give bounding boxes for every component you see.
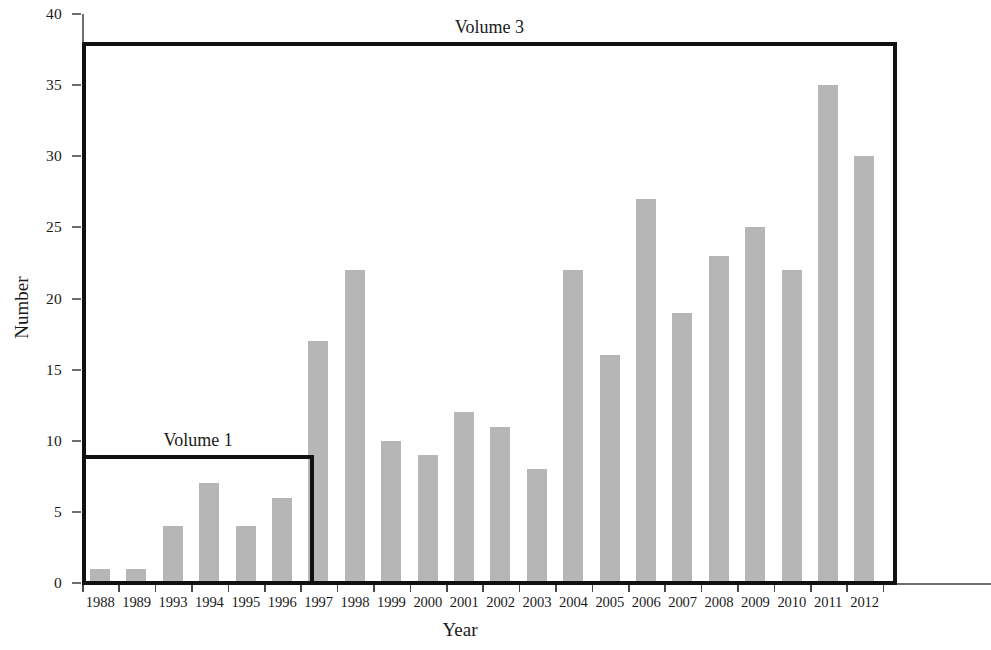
y-axis-tick-label: 30 [28, 148, 62, 164]
x-axis-title: Year [0, 620, 920, 639]
y-axis-tick-label: 20 [28, 291, 62, 307]
volume-box [82, 42, 897, 585]
y-axis-tick [72, 369, 81, 371]
y-axis-tick-label: 25 [28, 219, 62, 235]
y-axis-tick [72, 226, 81, 228]
x-axis-tick-label: 2012 [842, 594, 886, 611]
y-axis-tick-label: 5 [28, 504, 62, 520]
y-axis-tick-label: 10 [28, 433, 62, 449]
y-axis-tick-label: 0 [28, 575, 62, 591]
y-axis-tick [72, 298, 81, 300]
y-axis-tick [72, 582, 81, 584]
y-axis-tick [72, 511, 81, 513]
y-axis-tick-label: 40 [28, 6, 62, 22]
y-axis-tick [72, 155, 81, 157]
y-axis-tick-label: 15 [28, 362, 62, 378]
y-axis-title: Number [12, 253, 31, 363]
y-axis-tick-label: 35 [28, 77, 62, 93]
y-axis-tick [72, 84, 81, 86]
y-axis-tick [72, 13, 81, 15]
bar-chart: 0510152025303540 Number 1988198919931994… [0, 0, 991, 650]
y-axis-tick [72, 440, 81, 442]
volume-label: Volume 3 [82, 18, 897, 36]
